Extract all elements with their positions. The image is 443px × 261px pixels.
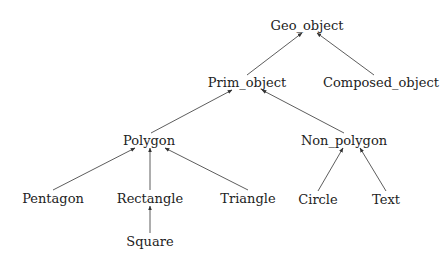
class-hierarchy-diagram: Geo_object Prim_object Composed_object P… xyxy=(0,0,443,261)
node-pentagon: Pentagon xyxy=(22,192,84,205)
edge-pentagon-to-polygon xyxy=(53,148,135,190)
edge-circle-to-non_polygon xyxy=(318,148,343,191)
node-non-polygon: Non_polygon xyxy=(301,134,387,147)
node-square: Square xyxy=(126,235,173,248)
edge-non_polygon-to-prim_object xyxy=(262,90,344,133)
edge-triangle-to-polygon xyxy=(165,148,248,190)
node-composed-object: Composed_object xyxy=(323,76,439,89)
node-rectangle: Rectangle xyxy=(117,192,183,205)
edges-layer xyxy=(0,0,443,261)
edge-composed_object-to-geo_object xyxy=(317,33,374,75)
node-geo-object: Geo_object xyxy=(271,19,344,32)
node-triangle: Triangle xyxy=(220,192,275,205)
edge-text-to-non_polygon xyxy=(360,148,386,191)
node-text: Text xyxy=(372,193,400,206)
node-polygon: Polygon xyxy=(123,134,175,147)
node-circle: Circle xyxy=(298,193,337,206)
node-prim-object: Prim_object xyxy=(208,76,286,89)
edge-prim_object-to-geo_object xyxy=(247,33,302,75)
edge-polygon-to-prim_object xyxy=(151,90,232,133)
